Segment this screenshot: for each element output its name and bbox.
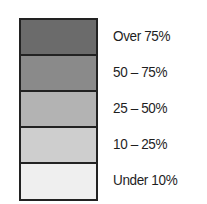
swatch-25-50 (21, 92, 96, 128)
legend-swatch-column (19, 18, 98, 201)
legend-label-50-75: 50 – 75% (113, 54, 177, 90)
legend-label-under-10: Under 10% (113, 162, 177, 198)
legend-label-10-25: 10 – 25% (113, 126, 177, 162)
legend-label-over-75: Over 75% (113, 18, 177, 54)
swatch-over-75 (21, 20, 96, 56)
swatch-10-25 (21, 128, 96, 164)
legend-label-25-50: 25 – 50% (113, 90, 177, 126)
swatch-50-75 (21, 56, 96, 92)
legend-labels: Over 75% 50 – 75% 25 – 50% 10 – 25% Unde… (113, 18, 184, 198)
swatch-under-10 (21, 164, 96, 199)
